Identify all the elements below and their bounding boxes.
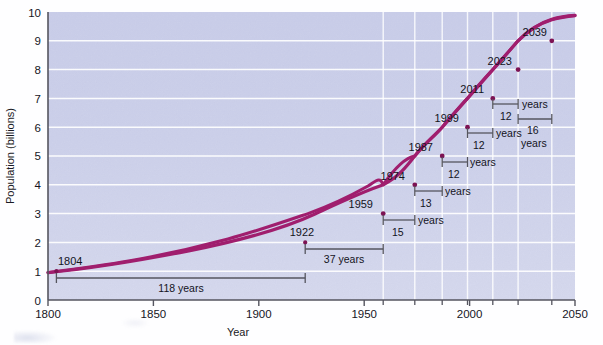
year-label-2023: 2023 — [488, 55, 512, 67]
marker-1922 — [303, 240, 307, 244]
y-tick-1: 1 — [35, 266, 41, 278]
interval-label-16-units: years — [521, 137, 547, 149]
year-label-1922: 1922 — [290, 226, 314, 238]
marker-2023 — [516, 67, 521, 72]
interval-label-12c-value: 12 — [500, 110, 512, 122]
population-line-chart: 0 1 2 3 4 5 6 7 8 9 10 1800 1850 1900 19… — [0, 0, 603, 345]
x-axis-title: Year — [227, 326, 250, 338]
interval-label-37-years: 37 years — [324, 253, 364, 265]
interval-label-12b-units: years — [496, 127, 522, 139]
year-label-2039: 2039 — [523, 26, 547, 38]
x-tick-1900: 1900 — [246, 308, 272, 320]
interval-label-118-years: 118 years — [158, 282, 203, 294]
marker-2039 — [549, 38, 554, 43]
y-tick-6: 6 — [35, 122, 41, 134]
chart-canvas: 0 1 2 3 4 5 6 7 8 9 10 1800 1850 1900 19… — [0, 0, 603, 345]
x-tick-1800: 1800 — [35, 308, 61, 320]
page-artifact-smudge-mid — [120, 318, 150, 328]
y-tick-7: 7 — [35, 93, 41, 105]
year-label-1999: 1999 — [435, 112, 459, 124]
interval-label-15-units: years — [418, 214, 444, 226]
interval-label-12b-value: 12 — [473, 139, 485, 151]
y-tick-5: 5 — [35, 150, 41, 162]
year-label-1974: 1974 — [381, 170, 405, 182]
y-tick-3: 3 — [35, 208, 41, 220]
y-tick-4: 4 — [35, 179, 42, 191]
y-tick-2: 2 — [35, 237, 41, 249]
year-label-1959: 1959 — [349, 198, 373, 210]
x-major-ticks — [48, 300, 575, 306]
y-tick-9: 9 — [35, 35, 41, 47]
page-artifact-smudge-left — [14, 330, 58, 343]
y-tick-labels: 0 1 2 3 4 5 6 7 8 9 10 — [28, 7, 41, 307]
year-label-1804: 1804 — [58, 255, 82, 267]
interval-label-12c-units: years — [522, 98, 548, 110]
interval-label-13-value: 13 — [420, 197, 432, 209]
x-tick-2000: 2000 — [457, 308, 483, 320]
y-tick-10: 10 — [28, 7, 41, 19]
interval-label-12a-value: 12 — [448, 168, 460, 180]
y-axis-title: Population (billions) — [4, 108, 16, 204]
year-label-1987: 1987 — [409, 141, 433, 153]
x-tick-2050: 2050 — [562, 308, 588, 320]
year-label-2011: 2011 — [460, 83, 484, 95]
interval-label-13-units: years — [445, 185, 471, 197]
y-tick-8: 8 — [35, 64, 41, 76]
interval-label-16-value: 16 — [527, 124, 539, 136]
population-growth-figure: 0 1 2 3 4 5 6 7 8 9 10 1800 1850 1900 19… — [0, 0, 603, 345]
x-tick-1950: 1950 — [351, 308, 377, 320]
interval-label-12a-units: years — [470, 156, 496, 168]
interval-label-15-value: 15 — [392, 226, 404, 238]
marker-1804 — [54, 269, 58, 273]
y-tick-0: 0 — [35, 295, 41, 307]
x-tick-labels: 1800 1850 1900 1950 2000 2050 — [35, 308, 588, 320]
